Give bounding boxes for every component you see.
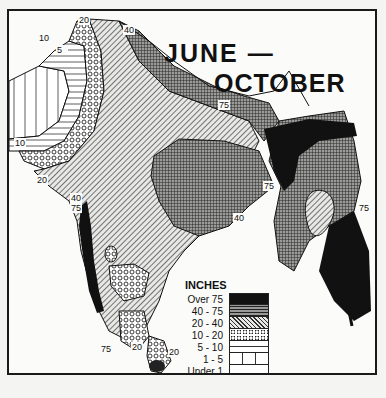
contour-label: 20 — [37, 175, 47, 185]
contour-label: 40 — [124, 25, 134, 35]
contour-label: 20 — [169, 347, 179, 357]
contour-label: 75 — [101, 344, 111, 354]
region-10-20-small — [105, 246, 117, 262]
swatch-dotted-blank — [229, 365, 269, 375]
region-ceylon-tip — [149, 360, 165, 372]
contour-label: 75 — [359, 203, 369, 213]
contour-label: 10 — [15, 138, 25, 148]
map-title-line1: JUNE — — [164, 39, 275, 68]
legend-item-40-75: 40 - 75 — [181, 305, 281, 317]
legend-item-over-75: Over 75 — [181, 293, 281, 305]
map-frame: 102040510204075757540757520207540 JUNE —… — [7, 9, 377, 375]
swatch-horizontal-lines — [229, 341, 269, 353]
legend-title: INCHES — [185, 279, 281, 291]
legend-item-5-10: 5 - 10 — [181, 341, 281, 353]
swatch-solid-black — [229, 293, 269, 305]
contour-label: 75 — [144, 373, 154, 375]
contour-label: 40 — [234, 213, 244, 223]
contour-label: 10 — [39, 33, 49, 43]
contour-label: 5 — [57, 45, 62, 55]
swatch-circle-lattice — [229, 329, 269, 341]
swatch-dense-crosshatch — [229, 305, 269, 317]
contour-label: 75 — [264, 181, 274, 191]
swatch-vertical-lines — [229, 353, 269, 365]
legend-item-under-1: Under 1 — [181, 365, 281, 375]
contour-label: 20 — [132, 342, 142, 352]
swatch-diagonal-hatch — [229, 317, 269, 329]
legend-item-20-40: 20 - 40 — [181, 317, 281, 329]
legend-item-10-20: 10 - 20 — [181, 329, 281, 341]
contour-label: 75 — [71, 203, 81, 213]
map-title-line2: OCTOBER — [214, 69, 346, 98]
contour-label: 75 — [219, 100, 229, 110]
legend-item-1-5: 1 - 5 — [181, 353, 281, 365]
contour-label: 20 — [79, 15, 89, 25]
contour-label: 40 — [71, 193, 81, 203]
legend: INCHES Over 75 40 - 75 20 - 40 10 - 20 5… — [181, 279, 281, 375]
